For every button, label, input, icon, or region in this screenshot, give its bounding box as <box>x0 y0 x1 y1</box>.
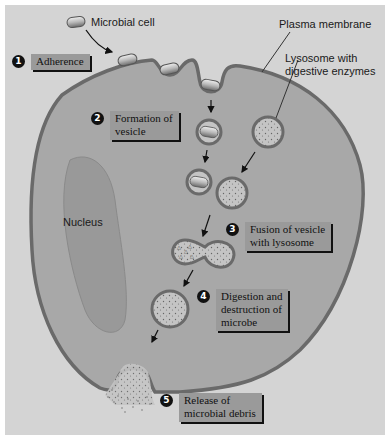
step-label: Formation of vesicle <box>110 111 179 140</box>
step-number-badge: 4 <box>197 290 210 303</box>
step-label: Release of microbial debris <box>179 393 262 422</box>
step-label: Adherence <box>31 54 90 70</box>
step-2-formation-of-vesicle: 2 Formation of vesicle <box>91 111 179 140</box>
svg-text:△: △ <box>179 253 183 259</box>
svg-text:△: △ <box>190 253 194 259</box>
step-number-badge: 5 <box>160 394 173 407</box>
step-label: Digestion and destruction of microbe <box>216 289 288 331</box>
approach-arrow <box>86 30 112 52</box>
step-number-badge: 2 <box>91 112 104 125</box>
step-4-digestion: 4 Digestion and destruction of microbe <box>197 289 288 331</box>
step-number-badge: 1 <box>12 55 25 68</box>
step-number-badge: 3 <box>226 223 239 236</box>
nucleus-label: Nucleus <box>63 216 103 229</box>
digestion-vesicle <box>152 291 188 327</box>
lysosome-label-line1: Lysosome with <box>285 52 357 65</box>
step-5-release: 5 Release of microbial debris <box>160 393 262 422</box>
lysosome <box>253 117 283 147</box>
step-label: Fusion of vesicle with lysosome <box>245 222 331 251</box>
free-microbe-icon <box>66 16 85 28</box>
microbial-cell-label: Microbial cell <box>91 16 155 29</box>
lysosome-label-line2: digestive enzymes <box>285 65 376 78</box>
svg-text:△: △ <box>177 244 181 250</box>
svg-text:△: △ <box>188 243 192 249</box>
step-3-fusion: 3 Fusion of vesicle with lysosome <box>226 222 331 251</box>
lysosome <box>217 178 247 208</box>
plasma-membrane-label: Plasma membrane <box>279 18 371 31</box>
step-1-adherence: 1 Adherence <box>12 54 90 70</box>
